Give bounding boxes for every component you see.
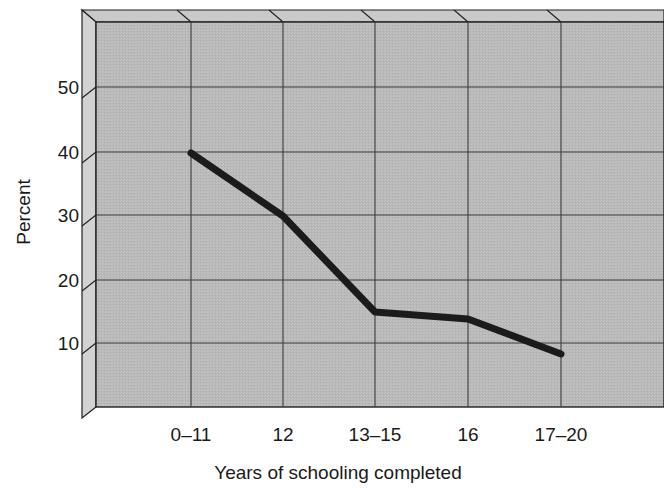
x-tick-label-12: 12 <box>272 424 293 445</box>
x-tick-label-17-20: 17–20 <box>535 424 588 445</box>
line-chart: 50 40 30 20 10 Percent 0–11 12 13–15 16 … <box>0 0 664 496</box>
x-axis-title: Years of schooling completed <box>214 462 462 483</box>
chart-figure: 50 40 30 20 10 Percent 0–11 12 13–15 16 … <box>0 0 664 496</box>
x-tick-label-16: 16 <box>457 424 478 445</box>
y-tick-label-40: 40 <box>58 142 79 163</box>
x-tick-label-13-15: 13–15 <box>349 424 402 445</box>
y-tick-label-20: 20 <box>58 270 79 291</box>
y-tick-label-10: 10 <box>58 333 79 354</box>
x-tick-label-0-11: 0–11 <box>171 424 212 445</box>
y-tick-label-50: 50 <box>58 77 79 98</box>
y-tick-label-30: 30 <box>58 205 79 226</box>
plot-left-panel <box>82 10 96 418</box>
y-axis-title: Percent <box>13 179 34 245</box>
